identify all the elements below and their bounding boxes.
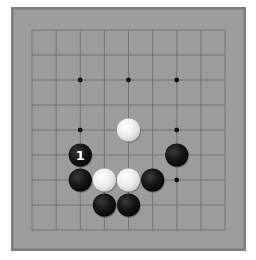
white-stone[interactable] xyxy=(117,118,141,142)
star-point xyxy=(78,78,83,83)
go-problem-view: 1 xyxy=(0,0,256,260)
star-point xyxy=(78,128,83,133)
white-stone[interactable] xyxy=(117,168,141,192)
stone-body xyxy=(165,143,188,166)
stone-body xyxy=(93,193,116,216)
star-point xyxy=(174,178,179,183)
stone-body xyxy=(141,168,164,191)
black-stone[interactable] xyxy=(69,168,93,192)
star-point xyxy=(174,128,179,133)
black-stone[interactable] xyxy=(165,143,189,167)
stone-body xyxy=(117,168,140,191)
stone-body xyxy=(69,168,92,191)
white-stone[interactable] xyxy=(93,168,117,192)
go-board-grid[interactable]: 1 xyxy=(0,0,256,260)
stone-body xyxy=(117,193,140,216)
black-stone[interactable] xyxy=(117,193,141,217)
star-point xyxy=(126,78,131,83)
stone-body xyxy=(93,168,116,191)
black-stone[interactable] xyxy=(93,193,117,217)
star-point xyxy=(174,78,179,83)
black-stone[interactable]: 1 xyxy=(69,143,93,167)
move-number-label: 1 xyxy=(76,148,85,163)
stone-body xyxy=(117,118,140,141)
black-stone[interactable] xyxy=(141,168,165,192)
